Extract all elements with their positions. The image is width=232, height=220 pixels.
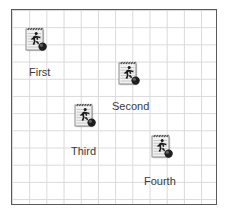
- runner-notepad-icon[interactable]: [117, 60, 141, 89]
- marker-label: Fourth: [144, 175, 176, 187]
- map-marker[interactable]: [73, 102, 97, 131]
- marker-label: Second: [112, 100, 149, 112]
- runner-notepad-icon: [24, 26, 48, 55]
- marker-label: Third: [71, 145, 96, 157]
- map-marker[interactable]: [117, 60, 141, 89]
- runner-notepad-icon[interactable]: [150, 133, 174, 162]
- runner-notepad-icon[interactable]: [24, 26, 48, 55]
- marker-label: First: [29, 66, 50, 78]
- runner-notepad-icon: [150, 133, 174, 162]
- runner-notepad-icon[interactable]: [73, 102, 97, 131]
- map-marker[interactable]: [24, 26, 48, 55]
- runner-notepad-icon: [73, 102, 97, 131]
- runner-notepad-icon: [117, 60, 141, 89]
- grid-canvas: First Second: [11, 9, 217, 205]
- map-marker[interactable]: [150, 133, 174, 162]
